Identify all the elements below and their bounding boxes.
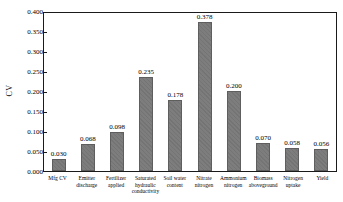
- bar-slot: 0.378: [190, 13, 219, 171]
- y-tick-label: 0.350: [3, 28, 43, 36]
- x-category-label: Emitter discharge: [72, 175, 101, 195]
- bar-value-label: 0.070: [255, 134, 271, 142]
- bar-slot: 0.178: [161, 13, 190, 171]
- bar-slot: 0.200: [219, 13, 248, 171]
- bar-slot: 0.235: [132, 13, 161, 171]
- bar: [198, 22, 212, 171]
- x-category-label: Biomass aboveground: [248, 175, 279, 195]
- bar: [52, 159, 66, 171]
- bar-slot: 0.068: [73, 13, 102, 171]
- bar-slot: 0.098: [102, 13, 131, 171]
- y-tick-label: 0.000: [3, 168, 43, 176]
- x-category-label: Ammonium nitrogen: [219, 175, 248, 195]
- bar-value-label: 0.056: [314, 140, 330, 148]
- bar-chart: CV 0.0000.0500.1000.1500.2000.2500.3000.…: [0, 0, 343, 202]
- y-tick-label: 0.150: [3, 108, 43, 116]
- bars-container: 0.0300.0680.0980.2350.1780.3780.2000.070…: [44, 13, 336, 171]
- bar-slot: 0.056: [307, 13, 336, 171]
- bar: [285, 148, 299, 171]
- x-category-label: Yield: [308, 175, 337, 195]
- bar: [81, 144, 95, 171]
- bar: [168, 100, 182, 171]
- bar: [256, 143, 270, 171]
- x-category-label: Nitrogen uptake: [279, 175, 308, 195]
- y-tick-label: 0.250: [3, 68, 43, 76]
- bar-slot: 0.058: [278, 13, 307, 171]
- bar-slot: 0.070: [248, 13, 277, 171]
- x-category-label: Mfg CV: [43, 175, 72, 195]
- bar: [227, 91, 241, 171]
- bar-value-label: 0.068: [80, 135, 96, 143]
- y-tick-label: 0.050: [3, 148, 43, 156]
- bar-value-label: 0.098: [109, 123, 125, 131]
- bar: [110, 132, 124, 171]
- bar: [314, 149, 328, 171]
- x-category-label: Nitrate nitrogen: [189, 175, 218, 195]
- x-category-label: Soil water content: [160, 175, 189, 195]
- bar: [139, 77, 153, 171]
- bar-value-label: 0.235: [138, 68, 154, 76]
- y-tick-label: 0.400: [3, 8, 43, 16]
- x-category-label: Saturated hydraulic conductivity: [131, 175, 161, 195]
- bar-value-label: 0.178: [168, 91, 184, 99]
- bar-value-label: 0.378: [197, 13, 213, 21]
- bar-value-label: 0.200: [226, 82, 242, 90]
- y-tick-label: 0.200: [3, 88, 43, 96]
- x-axis-category-labels: Mfg CVEmitter dischargeFertilizer applie…: [43, 175, 337, 195]
- x-category-label: Fertilizer applied: [101, 175, 130, 195]
- bar-value-label: 0.058: [284, 139, 300, 147]
- bar-slot: 0.030: [44, 13, 73, 171]
- y-tick-label: 0.300: [3, 48, 43, 56]
- bar-value-label: 0.030: [51, 150, 67, 158]
- y-tick-label: 0.100: [3, 128, 43, 136]
- plot-area: 0.0300.0680.0980.2350.1780.3780.2000.070…: [43, 12, 337, 172]
